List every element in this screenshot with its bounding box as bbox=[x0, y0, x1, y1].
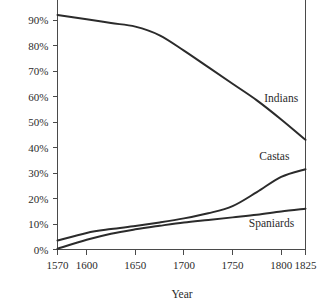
x-tick-label: 1800 bbox=[270, 259, 293, 271]
x-axis-ticks bbox=[58, 250, 306, 255]
y-tick-label: 60% bbox=[28, 91, 48, 103]
x-tick-label: 1650 bbox=[124, 259, 147, 271]
axis-frame bbox=[58, 0, 306, 250]
x-tick-label: 1570 bbox=[47, 259, 70, 271]
y-tick-label: 10% bbox=[28, 218, 48, 230]
y-tick-label: 20% bbox=[28, 193, 48, 205]
series-curve-indians bbox=[58, 15, 306, 140]
series-curve-spaniards bbox=[58, 209, 306, 249]
y-tick-label: 50% bbox=[28, 116, 48, 128]
x-tick-label: 1750 bbox=[222, 259, 245, 271]
x-axis-tick-labels: 1570160016501700175018001825 bbox=[47, 259, 318, 271]
series-label-indians: Indians bbox=[264, 92, 298, 104]
y-tick-label: 70% bbox=[28, 65, 48, 77]
x-axis-title: Year bbox=[171, 288, 192, 300]
y-tick-label: 80% bbox=[28, 40, 48, 52]
data-curves bbox=[58, 15, 306, 249]
y-tick-label: 90% bbox=[28, 14, 48, 26]
plot-frame bbox=[58, 0, 306, 250]
series-label-spaniards: Spaniards bbox=[249, 217, 295, 230]
x-tick-label: 1700 bbox=[173, 259, 196, 271]
chart-container: 0%10%20%30%40%50%60%70%80%90% 1570160016… bbox=[0, 0, 325, 308]
y-tick-label: 0% bbox=[34, 244, 49, 256]
y-tick-label: 40% bbox=[28, 142, 48, 154]
y-tick-label: 30% bbox=[28, 167, 48, 179]
series-curve-castas bbox=[58, 169, 306, 240]
series-label-castas: Castas bbox=[259, 150, 290, 162]
y-axis-tick-labels: 0%10%20%30%40%50%60%70%80%90% bbox=[28, 14, 48, 256]
x-tick-label: 1825 bbox=[295, 259, 318, 271]
y-axis-ticks bbox=[53, 20, 58, 250]
population-share-line-chart: 0%10%20%30%40%50%60%70%80%90% 1570160016… bbox=[0, 0, 325, 308]
x-tick-label: 1600 bbox=[76, 259, 99, 271]
